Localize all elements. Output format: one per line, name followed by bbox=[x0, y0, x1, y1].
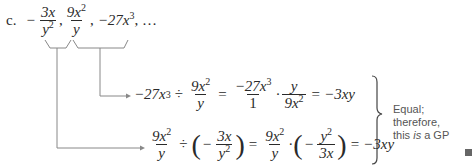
step1-result: −3xy bbox=[324, 86, 355, 103]
term1-sign: − bbox=[26, 12, 34, 29]
step1-equation: −27x3 ÷ 9x2 y = −27x3 1 · y 9x2 = −3xy bbox=[134, 78, 355, 111]
step2-equation: 9x2 y ÷ ( − 3x y2 ) = 9x2 y · ( − y2 3x … bbox=[148, 128, 394, 161]
ellipsis: , … bbox=[135, 12, 158, 29]
sequence-line: c. − 3x y2 , 9x2 y , −27x3 , … bbox=[6, 4, 157, 37]
term1: 3x y2 bbox=[39, 4, 57, 37]
problem-label: c. bbox=[6, 12, 16, 29]
step2-result: −3xy bbox=[363, 136, 394, 153]
end-of-proof-icon bbox=[465, 149, 472, 156]
term2: 9x2 y bbox=[65, 4, 88, 37]
conclusion-note: Equal; therefore, this is a GP bbox=[393, 103, 474, 142]
term3: −27x3 bbox=[98, 12, 135, 29]
